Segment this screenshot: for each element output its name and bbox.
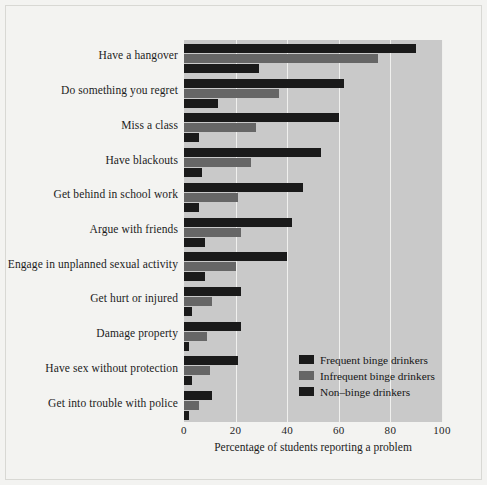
bar [184,297,212,306]
bar-group [184,148,442,177]
legend-item[interactable]: Non–binge drinkers [299,384,439,399]
bar [184,356,238,365]
category-label: Engage in unplanned sexual activity [6,258,184,270]
bar [184,252,287,261]
chart-legend: Frequent binge drinkersInfrequent binge … [299,352,439,400]
bar [184,272,205,281]
legend-label: Frequent binge drinkers [320,354,428,366]
bar [184,193,238,202]
category-label: Have a hangover [6,49,184,61]
category-label: Have blackouts [6,154,184,166]
gridline-100 [442,40,443,422]
bar [184,366,210,375]
bar [184,89,279,98]
bar-group [184,218,442,247]
bar [184,342,189,351]
legend-swatch-icon [299,387,314,396]
bar [184,79,344,88]
bar [184,99,218,108]
x-tick-label: 60 [333,424,345,436]
x-tick-label: 80 [385,424,397,436]
bar [184,322,241,331]
bar-group [184,322,442,351]
bar [184,376,192,385]
category-label: Argue with friends [6,223,184,235]
bar [184,287,241,296]
bar [184,183,303,192]
bar [184,332,207,341]
bar [184,401,199,410]
grouped-bar-chart: Have a hangoverDo something you regretMi… [0,0,487,485]
bar-group [184,44,442,73]
legend-item[interactable]: Infrequent binge drinkers [299,368,439,383]
bar-group [184,287,442,316]
x-axis-title: Percentage of students reporting a probl… [184,441,442,453]
legend-swatch-icon [299,355,314,364]
bar [184,158,251,167]
legend-item[interactable]: Frequent binge drinkers [299,352,439,367]
bar [184,307,192,316]
bar-group [184,79,442,108]
bar [184,44,416,53]
bar [184,148,321,157]
bar [184,228,241,237]
bar [184,64,259,73]
category-label: Damage property [6,327,184,339]
x-tick-label: 100 [433,424,450,436]
category-label: Do something you regret [6,84,184,96]
bar [184,391,212,400]
legend-label: Non–binge drinkers [320,386,410,398]
category-label: Get hurt or injured [6,292,184,304]
bar-group [184,183,442,212]
bar [184,411,189,420]
category-label: Miss a class [6,119,184,131]
category-label: Have sex without protection [6,362,184,374]
x-tick-label: 40 [281,424,293,436]
chart-page: Have a hangoverDo something you regretMi… [0,0,487,485]
legend-swatch-icon [299,371,314,380]
bar [184,113,339,122]
category-label: Get behind in school work [6,188,184,200]
x-tick-label: 0 [181,424,187,436]
bar [184,262,236,271]
bar [184,133,199,142]
bar-group [184,252,442,281]
legend-label: Infrequent binge drinkers [320,370,435,382]
bar [184,168,202,177]
category-axis-labels: Have a hangoverDo something you regretMi… [0,40,184,422]
bar [184,238,205,247]
bar [184,203,199,212]
bar [184,218,292,227]
bar [184,54,378,63]
bar-group [184,113,442,142]
bar [184,123,256,132]
x-tick-label: 20 [230,424,242,436]
category-label: Get into trouble with police [6,397,184,409]
